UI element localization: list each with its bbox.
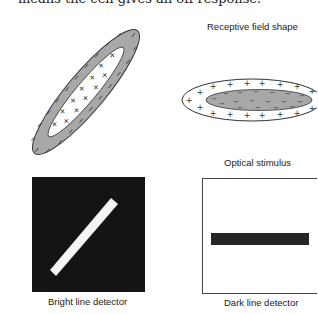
svg-text:−: − <box>285 90 291 98</box>
svg-text:+: + <box>210 82 217 91</box>
optical-stimulus-label: Optical stimulus <box>224 157 291 168</box>
dark-line-detector-label: Dark line detector <box>224 297 298 308</box>
dark-line-receptive-field: +++++++++ ++++++++ −−−−−−− −−−−−− −−−− <box>182 79 317 121</box>
svg-text:−: − <box>289 103 295 111</box>
svg-text:+: + <box>227 80 234 89</box>
svg-text:−: − <box>269 89 275 97</box>
svg-text:+: + <box>186 96 193 105</box>
svg-text:+: + <box>309 104 316 113</box>
svg-text:−: − <box>237 104 243 112</box>
svg-text:+: + <box>309 87 316 96</box>
svg-text:−: − <box>265 98 271 106</box>
svg-text:−: − <box>273 104 279 112</box>
svg-text:−: − <box>237 89 243 97</box>
svg-text:+: + <box>197 88 204 97</box>
svg-text:−: − <box>297 98 303 106</box>
svg-text:+: + <box>244 111 251 120</box>
svg-text:+: + <box>197 103 204 112</box>
bright-line-receptive-field: −−−−−−−−−− −−−−−−−−−− −− +++++++ +++++ <box>18 17 151 165</box>
svg-text:−: − <box>223 90 229 98</box>
svg-text:−: − <box>281 98 287 106</box>
svg-text:−: − <box>255 104 261 112</box>
svg-text:−: − <box>219 100 225 108</box>
svg-text:+: + <box>244 79 251 88</box>
receptive-field-shape-label: Receptive field shape <box>207 21 298 32</box>
svg-text:−: − <box>253 88 259 96</box>
svg-text:+: + <box>294 82 301 91</box>
svg-text:+: + <box>259 79 266 88</box>
bright-line-stimulus <box>32 177 145 292</box>
svg-text:+: + <box>277 80 284 89</box>
svg-text:+: + <box>259 111 266 120</box>
svg-text:−: − <box>211 95 217 103</box>
svg-text:+: + <box>227 110 234 119</box>
bright-line-detector-label: Bright line detector <box>48 296 127 307</box>
svg-text:+: + <box>210 109 217 118</box>
dark-line-stimulus <box>203 179 318 294</box>
